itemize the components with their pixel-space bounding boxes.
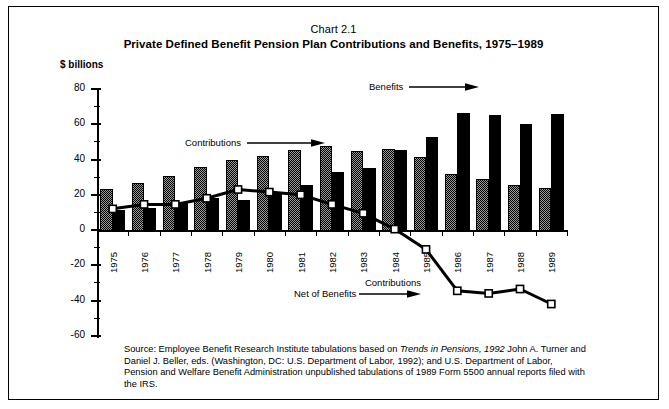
- x-tick: [567, 230, 568, 236]
- net-line-marker: [109, 205, 116, 212]
- net-line-marker: [391, 226, 398, 233]
- y-tick-label: 40: [51, 153, 85, 164]
- arrow-right-icon: [247, 139, 325, 147]
- y-tick-label: -60: [51, 329, 85, 340]
- annotation-net-line2: Net of Benefits: [294, 288, 356, 299]
- annotation-net-line1: Contributions: [294, 277, 421, 288]
- y-tick-label: 80: [51, 82, 85, 93]
- net-line-marker: [203, 195, 210, 202]
- net-line-marker: [328, 201, 335, 208]
- chart-frame: Chart 2.1 Private Defined Benefit Pensio…: [8, 6, 659, 400]
- x-tick-label: 1977: [170, 239, 181, 273]
- net-line-series: [97, 89, 567, 338]
- annotation-benefits: Benefits: [369, 81, 479, 92]
- annotation-benefits-label: Benefits: [369, 81, 403, 92]
- plot-area: 806040200-20-40-60 197519761977197819791…: [97, 89, 567, 385]
- x-tick-label: 1985: [421, 239, 432, 273]
- y-tick-label: 0: [51, 223, 85, 234]
- x-tick-label: 1976: [139, 239, 150, 273]
- x-tick-label: 1979: [233, 239, 244, 273]
- net-line-marker: [140, 201, 147, 208]
- net-line-marker: [548, 300, 555, 307]
- annotation-contributions-label: Contributions: [185, 137, 241, 148]
- x-tick-label: 1987: [484, 239, 495, 273]
- net-line-marker: [297, 191, 304, 198]
- arrow-right-icon: [409, 83, 479, 91]
- title-block: Chart 2.1 Private Defined Benefit Pensio…: [9, 23, 658, 50]
- net-line-marker: [516, 285, 523, 292]
- net-line-marker: [485, 290, 492, 297]
- y-tick-label: 60: [51, 117, 85, 128]
- x-tick-label: 1980: [264, 239, 275, 273]
- chart-number: Chart 2.1: [9, 23, 658, 35]
- source-italic-title: Trends in Pensions, 1992: [400, 344, 505, 354]
- x-tick-label: 1986: [452, 239, 463, 273]
- source-part1: Source: Employee Benefit Research Instit…: [124, 344, 400, 354]
- net-line-marker: [454, 287, 461, 294]
- annotation-net-of-benefits: Contributions Net of Benefits: [294, 277, 421, 299]
- arrow-right-icon: [359, 290, 421, 298]
- x-tick-label: 1975: [108, 239, 119, 273]
- y-tick-label: -20: [51, 258, 85, 269]
- x-tick-label: 1984: [390, 239, 401, 273]
- y-tick-label: -40: [51, 294, 85, 305]
- y-axis-unit-label: $ billions: [60, 59, 103, 70]
- y-tick-label: 20: [51, 188, 85, 199]
- net-line-marker: [266, 189, 273, 196]
- x-tick-label: 1983: [358, 239, 369, 273]
- chart-title: Private Defined Benefit Pension Plan Con…: [9, 38, 658, 50]
- annotation-contributions: Contributions: [185, 137, 325, 148]
- source-note: Source: Employee Benefit Research Instit…: [124, 344, 586, 390]
- annotation-net-line2-row: Net of Benefits: [294, 288, 421, 299]
- x-tick-label: 1982: [327, 239, 338, 273]
- x-tick-label: 1981: [296, 239, 307, 273]
- x-tick-label: 1978: [202, 239, 213, 273]
- net-line-marker: [360, 210, 367, 217]
- net-line-marker: [234, 186, 241, 193]
- net-line-marker: [172, 201, 179, 208]
- x-tick-label: 1989: [546, 239, 557, 273]
- x-tick-label: 1988: [515, 239, 526, 273]
